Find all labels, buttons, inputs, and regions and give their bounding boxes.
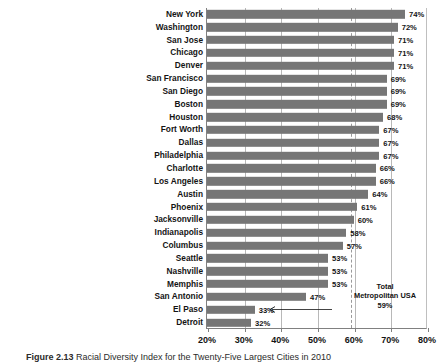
- category-label: San Francisco: [13, 74, 203, 83]
- bar-value-label: 71%: [398, 36, 413, 45]
- bar: [207, 241, 343, 249]
- bar: [207, 36, 394, 44]
- bar: [207, 100, 387, 108]
- bar: [207, 151, 379, 159]
- category-label: Philadelphia: [13, 151, 203, 160]
- category-label: Seattle: [13, 254, 203, 263]
- category-label: Memphis: [13, 280, 203, 289]
- bar: [207, 280, 328, 288]
- bar-row: Denver71%: [0, 59, 443, 72]
- category-label: Houston: [13, 113, 203, 122]
- bar-value-label: 74%: [409, 10, 424, 19]
- bar: [207, 23, 398, 31]
- bar-row: San Francisco69%: [0, 72, 443, 85]
- bar: [207, 190, 368, 198]
- category-label: Dallas: [13, 138, 203, 147]
- bar: [207, 62, 394, 70]
- bar-row: Los Angeles66%: [0, 175, 443, 188]
- bar: [207, 164, 376, 172]
- bar-row: San Diego69%: [0, 85, 443, 98]
- reference-line-annotation: Total Metropolitan USA 59%: [333, 282, 437, 310]
- bar-row: Columbus57%: [0, 239, 443, 252]
- bar-row: Philadelphia67%: [0, 149, 443, 162]
- bar-row: Washington72%: [0, 21, 443, 34]
- bar-value-label: 72%: [402, 23, 417, 32]
- category-label: Jacksonville: [13, 215, 203, 224]
- bar-row: Charlotte66%: [0, 162, 443, 175]
- bar: [207, 254, 328, 262]
- bar-value-label: 67%: [383, 125, 398, 134]
- category-label: Los Angeles: [13, 177, 203, 186]
- bar: [207, 267, 328, 275]
- x-tick-label: 70%: [381, 335, 399, 345]
- category-label: San Jose: [13, 36, 203, 45]
- bar-value-label: 69%: [391, 74, 406, 83]
- category-label: New York: [13, 10, 203, 19]
- bar: [207, 177, 376, 185]
- x-tick-label: 20%: [198, 335, 216, 345]
- bar-row: New York74%: [0, 8, 443, 21]
- annotation-arrow: [268, 299, 332, 306]
- bar: [207, 216, 354, 224]
- bar-row: Chicago71%: [0, 47, 443, 60]
- bar: [207, 306, 255, 314]
- bar-value-label: 53%: [332, 254, 347, 263]
- category-label: Chicago: [13, 48, 203, 57]
- bar: [207, 49, 394, 57]
- figure-caption: Figure 2.13 Racial Diversity Index for t…: [26, 351, 436, 363]
- bar-value-label: 64%: [372, 190, 387, 199]
- category-label: Denver: [13, 61, 203, 70]
- bar-rows: New York74%Washington72%San Jose71%Chica…: [0, 8, 443, 329]
- bar-value-label: 71%: [398, 48, 413, 57]
- category-label: Detroit: [13, 318, 203, 327]
- bar-row: Seattle53%: [0, 252, 443, 265]
- annotation-line-2: Metropolitan USA: [333, 291, 437, 300]
- x-tick-label: 60%: [345, 335, 363, 345]
- bar: [207, 113, 383, 121]
- caption-number: Figure 2.13: [26, 352, 74, 362]
- category-label: Fort Worth: [13, 125, 203, 134]
- bar-value-label: 53%: [332, 267, 347, 276]
- category-label: Columbus: [13, 241, 203, 250]
- bar: [207, 87, 387, 95]
- x-tick-label: 30%: [235, 335, 253, 345]
- category-label: San Antonio: [13, 292, 203, 301]
- figure-container: New York74%Washington72%San Jose71%Chica…: [0, 0, 443, 364]
- category-label: Nashville: [13, 267, 203, 276]
- bar: [207, 318, 251, 326]
- x-tick-label: 50%: [308, 335, 326, 345]
- bar-value-label: 66%: [380, 164, 395, 173]
- bar-value-label: 67%: [383, 151, 398, 160]
- bar-row: Austin64%: [0, 188, 443, 201]
- category-label: Phoenix: [13, 203, 203, 212]
- bar: [207, 139, 379, 147]
- bar-value-label: 32%: [255, 318, 270, 327]
- bar-value-label: 57%: [347, 241, 362, 250]
- bar-row: Detroit32%: [0, 316, 443, 329]
- category-label: Washington: [13, 23, 203, 32]
- x-tick-label: 40%: [271, 335, 289, 345]
- x-tick-label: 80%: [418, 335, 436, 345]
- bar-value-label: 68%: [387, 113, 402, 122]
- bar: [207, 228, 346, 236]
- bar-value-label: 61%: [361, 203, 376, 212]
- bar-row: Jacksonville60%: [0, 213, 443, 226]
- bar-row: San Jose71%: [0, 34, 443, 47]
- category-label: Charlotte: [13, 164, 203, 173]
- bar-row: Houston68%: [0, 111, 443, 124]
- category-label: Austin: [13, 190, 203, 199]
- bar: [207, 74, 387, 82]
- bar-value-label: 69%: [391, 87, 406, 96]
- caption-text: Racial Diversity Index for the Twenty-Fi…: [76, 352, 331, 362]
- bar-value-label: 66%: [380, 177, 395, 186]
- bar-value-label: 69%: [391, 100, 406, 109]
- category-label: Indianapolis: [13, 228, 203, 237]
- bar-row: Fort Worth67%: [0, 124, 443, 137]
- x-axis: 20%30%40%50%60%70%80%: [0, 333, 443, 347]
- bar: [207, 126, 379, 134]
- bar-value-label: 67%: [383, 138, 398, 147]
- bar-row: Phoenix61%: [0, 201, 443, 214]
- bar-row: Nashville53%: [0, 265, 443, 278]
- bar-row: Dallas67%: [0, 136, 443, 149]
- bar-value-label: 71%: [398, 61, 413, 70]
